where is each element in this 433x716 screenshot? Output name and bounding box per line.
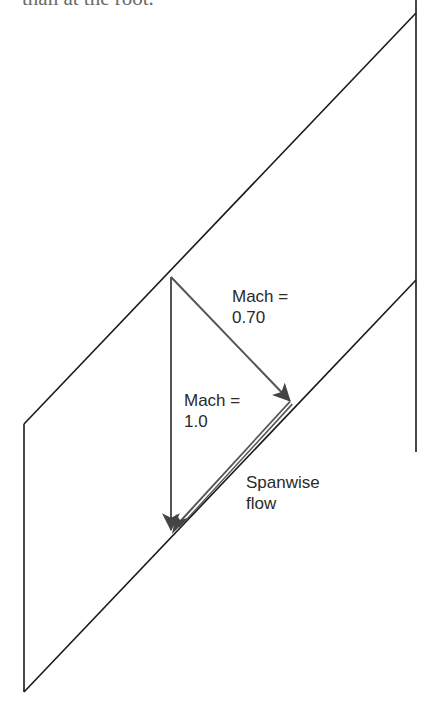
spanwise-label-line2: flow [246, 493, 320, 514]
wing-trailing-edge [24, 280, 416, 692]
mach-freestream-value: 0.70 [232, 307, 288, 328]
mach-normal-value: 1.0 [184, 411, 240, 432]
mach-normal-label: Mach = 1.0 [184, 390, 240, 432]
mach-freestream-label: Mach = 0.70 [232, 286, 288, 328]
swept-wing-diagram [0, 0, 433, 716]
spanwise-label-line1: Spanwise [246, 472, 320, 493]
wing-leading-edge [24, 13, 416, 424]
wing-outline [24, 0, 416, 692]
mach-normal-label-line1: Mach = [184, 390, 240, 411]
spanwise-flow-label: Spanwise flow [246, 472, 320, 514]
mach-freestream-label-line1: Mach = [232, 286, 288, 307]
